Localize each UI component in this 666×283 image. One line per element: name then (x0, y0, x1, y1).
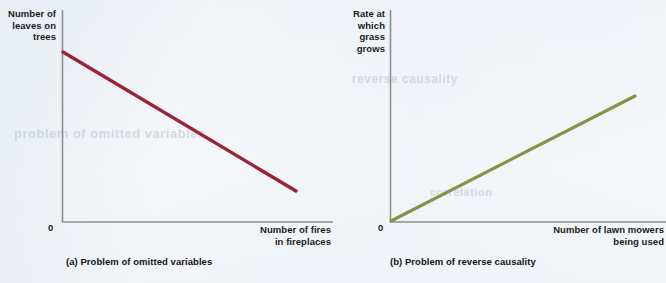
origin-label: 0 (378, 222, 383, 233)
panel-caption: (a) Problem of omitted variables (66, 256, 212, 268)
data-line-negative (63, 52, 296, 191)
y-axis-label: Number of leaves on trees (0, 8, 56, 43)
figure-container: Number of leaves on trees 0 Number of fi… (0, 0, 666, 283)
origin-label: 0 (48, 222, 53, 233)
y-axis-label: Rate at which grass grows (329, 8, 385, 54)
data-line-positive (391, 96, 635, 221)
panel-reverse-causality: Rate at which grass grows 0 Number of la… (333, 0, 666, 283)
panel-omitted-variables: Number of leaves on trees 0 Number of fi… (0, 0, 333, 283)
x-axis-label: Number of fires in fireplaces (230, 224, 331, 247)
panel-caption: (b) Problem of reverse causality (390, 256, 536, 268)
x-axis-label: Number of lawn mowers being used (537, 224, 664, 247)
